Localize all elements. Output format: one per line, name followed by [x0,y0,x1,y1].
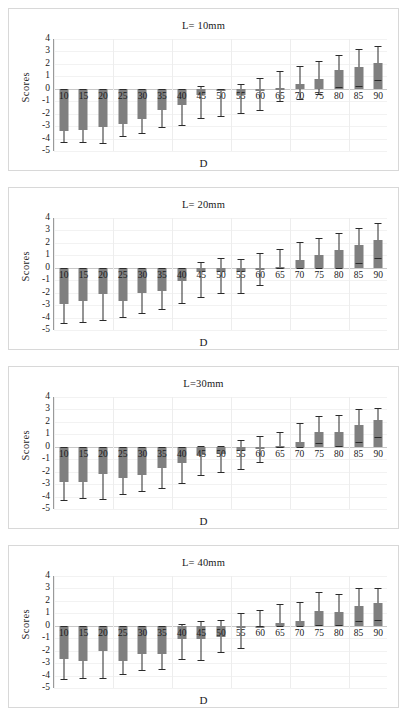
y-gridline [54,688,387,689]
y-axis-tick-label: -2 [42,288,50,298]
y-axis-tick-label: 1 [45,72,50,82]
x-axis-tick-label: 20 [98,92,108,102]
bar [374,420,383,447]
y-axis-tick-label: 2 [45,417,50,427]
error-bar-cap-lower [178,303,185,304]
bar-group: 55 [231,39,251,151]
y-axis-tick-label: 3 [45,584,50,594]
y-axis-tick-label: -2 [42,467,50,477]
error-bar-cap-lower [80,498,87,499]
x-axis-tick-label: 40 [177,629,187,639]
bar-group: 55 [231,218,251,330]
x-axis-tick-label: 15 [79,450,89,460]
error-bar-cap-upper [335,594,342,595]
error-bar-cap-lower [355,621,362,622]
error-bar-cap-lower [316,625,323,626]
y-axis-tick-label: -3 [42,121,50,131]
bar-group: 10 [54,576,74,688]
x-axis-tick-label: 75 [314,450,324,460]
error-bar-cap-upper [257,436,264,437]
error-bar-cap-upper [316,416,323,417]
bar-group: 40 [172,39,192,151]
y-axis-tick-label: -2 [42,646,50,656]
bar-group: 55 [231,397,251,509]
bar [374,603,383,626]
error-bar-cap-upper [335,55,342,56]
x-axis-tick-label: 55 [236,629,246,639]
y-axis-tick-label: 0 [45,263,50,273]
error-bar-cap-lower [375,80,382,81]
x-axis-tick-label: 85 [354,629,364,639]
error-bar-cap-lower [237,648,244,649]
error-bar-cap-lower [335,625,342,626]
error-bar-cap-upper [296,423,303,424]
bar-group: 60 [250,576,270,688]
y-axis-tick-label: -4 [42,492,50,502]
error-bar-cap-upper [237,613,244,614]
error-bar-cap-upper [316,592,323,593]
bar [334,612,343,626]
bar-group: 15 [74,218,94,330]
x-axis-tick-label: 65 [275,629,285,639]
x-axis-tick-label: 70 [295,271,305,281]
bar-group: 85 [349,218,369,330]
y-axis-tick-label: 4 [45,213,50,223]
error-bar-cap-upper [276,604,283,605]
bar-group: 35 [152,397,172,509]
bar [374,240,383,267]
x-axis-label: D [0,336,407,348]
x-axis-tick-label: 20 [98,450,108,460]
bar [334,250,343,268]
error-bar-cap-lower [139,313,146,314]
x-axis-tick-label: 45 [197,450,207,460]
x-axis-tick-label: 55 [236,450,246,460]
bar-group: 50 [211,397,231,509]
error-bar-cap-lower [60,679,67,680]
error-bar-cap-upper [237,259,244,260]
x-axis-tick-label: 85 [354,92,364,102]
error-bar-cap-lower [237,469,244,470]
plot-area: 43210-1-2-3-4-51015202530354045505560657… [53,218,387,330]
x-axis-tick-label: 30 [138,629,148,639]
y-axis-tick-label: 4 [45,392,50,402]
error-bar-cap-upper [198,86,205,87]
error-bar-cap-upper [217,446,224,447]
bar-group: 25 [113,576,133,688]
error-bar-cap-lower [198,660,205,661]
error-bar-cap-lower [217,652,224,653]
x-axis-tick-label: 30 [138,450,148,460]
error-bar-cap-lower [237,293,244,294]
x-axis-tick-label: 50 [216,92,226,102]
x-axis-tick-label: 90 [373,92,383,102]
error-bar-cap-upper [257,253,264,254]
bar-group: 45 [192,218,212,330]
bar-group: 55 [231,576,251,688]
bar [315,255,324,267]
error-bar-cap-upper [375,588,382,589]
bar-group: 45 [192,576,212,688]
error-bar-cap-lower [237,113,244,114]
bar-group: 80 [329,39,349,151]
bar-group: 50 [211,39,231,151]
x-axis-tick-label: 50 [216,271,226,281]
x-axis-tick-label: 25 [118,629,128,639]
error-bar-cap-lower [178,483,185,484]
bar-group: 65 [270,39,290,151]
bar-group: 25 [113,397,133,509]
y-axis-tick-label: 3 [45,226,50,236]
x-axis-tick-label: 35 [157,92,167,102]
bar-group: 75 [309,397,329,509]
y-axis-tick-label: 1 [45,430,50,440]
error-bar-cap-lower [257,462,264,463]
x-axis-tick-label: 90 [373,271,383,281]
bar-group: 60 [250,218,270,330]
y-axis-tick-label: -3 [42,479,50,489]
y-axis-tick-label: 4 [45,34,50,44]
x-axis-tick-label: 80 [334,271,344,281]
bar-group: 20 [93,39,113,151]
error-bar-cap-lower [217,116,224,117]
error-bar-cap-lower [375,437,382,438]
bar-group: 40 [172,576,192,688]
bar-group: 45 [192,397,212,509]
error-bar-cap-upper [355,49,362,50]
